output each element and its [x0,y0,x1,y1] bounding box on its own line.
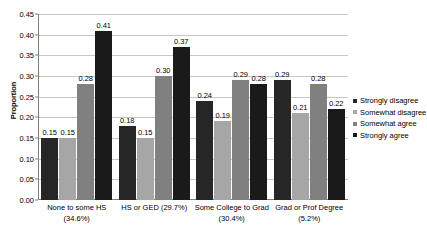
bar-slot: 0.41 [95,14,112,200]
bar-value-label: 0.29 [275,70,290,79]
y-tick-label: 0.45 [19,10,34,19]
bar-slot: 0.15 [137,14,154,200]
bar[interactable] [328,109,345,200]
bar[interactable] [155,76,172,200]
x-axis-category-label: None to some HS(34.6%) [38,203,116,224]
bar-slot: 0.29 [274,14,291,200]
bar-value-label: 0.24 [197,91,212,100]
x-axis-category-line: (30.4%) [193,214,271,225]
x-axis-labels: None to some HS(34.6%)HS or GED (29.7%)S… [38,203,348,224]
legend-item[interactable]: Somewhat agree [353,118,427,130]
bar[interactable] [196,101,213,200]
legend-item[interactable]: Somewhat disagree [353,107,427,119]
bar-value-label: 0.19 [215,111,230,120]
y-tick-label: 0.30 [19,72,34,81]
y-tick-label: 0.00 [19,196,34,205]
bar-group: 0.240.190.290.28 [193,14,271,200]
bar[interactable] [232,80,249,200]
legend-item-label: Strongly disagree [360,96,418,105]
bar-value-label: 0.30 [156,66,171,75]
bar-value-label: 0.28 [311,74,326,83]
bar-group: 0.290.210.280.22 [271,14,349,200]
x-axis-category-label: Grad or Prof Degree(5.2%) [271,203,349,224]
bar-slot: 0.24 [196,14,213,200]
y-tick-label: 0.35 [19,51,34,60]
bar-value-label: 0.22 [329,99,344,108]
bar-value-label: 0.21 [293,103,308,112]
bar-chart: Proportion 0.000.050.100.150.200.250.300… [0,0,427,247]
legend-item-label: Somewhat agree [360,119,417,128]
bar-groups: 0.150.150.280.410.180.150.300.370.240.19… [38,14,348,200]
bar-value-label: 0.15 [42,128,57,137]
y-tick-label: 0.40 [19,30,34,39]
bar-slot: 0.19 [214,14,231,200]
bar-value-label: 0.15 [60,128,75,137]
y-tick-label: 0.05 [19,175,34,184]
legend-item-label: Strongly agree [360,131,409,140]
bar-slot: 0.21 [292,14,309,200]
bar[interactable] [274,80,291,200]
bar[interactable] [310,84,327,200]
bar[interactable] [292,113,309,200]
bar[interactable] [41,138,58,200]
bar-slot: 0.37 [173,14,190,200]
bar-slot: 0.29 [232,14,249,200]
legend-swatch-icon [353,99,357,103]
bar-slot: 0.18 [119,14,136,200]
y-tick-label: 0.15 [19,134,34,143]
bar-value-label: 0.28 [251,74,266,83]
legend-item-label: Somewhat disagree [360,108,426,117]
bar[interactable] [119,126,136,200]
bar-value-label: 0.29 [233,70,248,79]
bar-value-label: 0.28 [78,74,93,83]
bar-value-label: 0.18 [120,116,135,125]
bar-slot: 0.15 [59,14,76,200]
legend-item[interactable]: Strongly disagree [353,95,427,107]
bar[interactable] [59,138,76,200]
x-axis-category-line: HS or GED (29.7%) [116,203,194,214]
bar[interactable] [214,121,231,200]
bar-slot: 0.22 [328,14,345,200]
bar-slot: 0.30 [155,14,172,200]
legend-item[interactable]: Strongly agree [353,130,427,142]
x-axis-category-line: (5.2%) [271,214,349,225]
y-axis-title: Proportion [9,61,18,141]
bar-group: 0.180.150.300.37 [116,14,194,200]
x-axis-category-label: HS or GED (29.7%) [116,203,194,224]
x-axis-category-line: None to some HS [38,203,116,214]
bar[interactable] [250,84,267,200]
bar-slot: 0.28 [310,14,327,200]
y-tick-label: 0.20 [19,113,34,122]
bar[interactable] [95,31,112,200]
legend-swatch-icon [353,122,357,126]
legend: Strongly disagreeSomewhat disagreeSomewh… [353,95,427,141]
legend-swatch-icon [353,133,357,137]
bar-slot: 0.28 [77,14,94,200]
legend-swatch-icon [353,110,357,114]
bar-value-label: 0.15 [138,128,153,137]
bar[interactable] [137,138,154,200]
bar-value-label: 0.41 [96,21,111,30]
x-axis-category-label: Some College to Grad(30.4%) [193,203,271,224]
y-tick-label: 0.25 [19,92,34,101]
bar[interactable] [77,84,94,200]
bar[interactable] [173,47,190,200]
y-tick-label: 0.10 [19,154,34,163]
x-axis-category-line: (34.6%) [38,214,116,225]
x-axis-category-line: Some College to Grad [193,203,271,214]
bar-value-label: 0.37 [174,37,189,46]
bar-slot: 0.28 [250,14,267,200]
bar-slot: 0.15 [41,14,58,200]
bar-group: 0.150.150.280.41 [38,14,116,200]
plot-area: 0.000.050.100.150.200.250.300.350.400.45… [38,14,348,200]
x-axis-category-line: Grad or Prof Degree [271,203,349,214]
